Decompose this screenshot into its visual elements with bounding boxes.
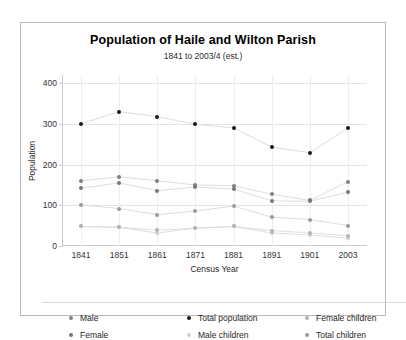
legend-item-total-children[interactable]: Total children (305, 330, 399, 340)
data-point (232, 204, 236, 208)
x-tick-label: 1861 (148, 250, 167, 260)
legend-label: Female children (316, 313, 376, 323)
x-axis-label: Census Year (62, 264, 367, 274)
data-point (117, 207, 121, 211)
y-tick-label: 300 (43, 119, 57, 129)
legend-item-male[interactable]: Male (69, 313, 187, 323)
data-point (270, 229, 274, 233)
data-point (79, 186, 83, 190)
data-point (270, 199, 274, 203)
x-tick-label: 2003 (338, 250, 357, 260)
legend-item-female[interactable]: Female (69, 330, 187, 340)
data-point (79, 179, 83, 183)
series-line-male (81, 177, 348, 201)
series-lines (62, 75, 367, 246)
chart-frame: Population of Haile and Wilton Parish 18… (20, 22, 386, 316)
legend-divider (42, 302, 406, 303)
legend-marker-icon (305, 316, 309, 320)
legend-label: Male children (198, 330, 249, 340)
data-point (308, 151, 312, 155)
x-tick-label: 1851 (110, 250, 129, 260)
x-tick-label: 1871 (186, 250, 205, 260)
data-point (193, 209, 197, 213)
data-point (155, 228, 159, 232)
data-point (270, 145, 274, 149)
legend-label: Male (80, 313, 98, 323)
data-point (308, 231, 312, 235)
data-point (193, 185, 197, 189)
data-point (346, 234, 350, 238)
y-tick-label: 0 (52, 241, 57, 251)
y-axis-label: Population (26, 75, 38, 246)
y-tick-label: 400 (43, 78, 57, 88)
legend-item-female-children[interactable]: Female children (305, 313, 399, 323)
y-tick-mark (59, 246, 63, 247)
chart-subtitle: 1841 to 2003/4 (est.) (21, 51, 385, 61)
data-point (232, 224, 236, 228)
data-point (346, 126, 350, 130)
data-point (308, 218, 312, 222)
data-point (270, 192, 274, 196)
data-point (308, 199, 312, 203)
y-tick-label: 100 (43, 200, 57, 210)
data-point (117, 225, 121, 229)
legend-label: Total children (316, 330, 366, 340)
x-tick-label: 1901 (300, 250, 319, 260)
data-point (79, 122, 83, 126)
data-point (117, 181, 121, 185)
data-point (79, 203, 83, 207)
legend-marker-icon (305, 333, 309, 337)
data-point (155, 115, 159, 119)
legend-label: Total population (198, 313, 258, 323)
data-point (232, 126, 236, 130)
legend-marker-icon (69, 333, 73, 337)
chart-legend: MaleTotal populationFemale childrenFemal… (69, 309, 399, 340)
legend-item-male-children[interactable]: Male children (187, 330, 305, 340)
series-line-total-population (81, 112, 348, 153)
legend-marker-icon (187, 333, 191, 337)
data-point (346, 224, 350, 228)
y-tick-label: 200 (43, 160, 57, 170)
legend-label: Female (80, 330, 108, 340)
data-point (155, 179, 159, 183)
chart-title: Population of Haile and Wilton Parish (21, 33, 385, 47)
data-point (155, 189, 159, 193)
data-point (232, 187, 236, 191)
plot-area: 0100200300400184118511861187118811891190… (62, 75, 367, 246)
data-point (117, 110, 121, 114)
x-tick-label: 1881 (224, 250, 243, 260)
data-point (117, 175, 121, 179)
x-tick-label: 1891 (262, 250, 281, 260)
x-tick-label: 1841 (72, 250, 91, 260)
data-point (79, 224, 83, 228)
legend-marker-icon (187, 316, 191, 320)
legend-item-total-population[interactable]: Total population (187, 313, 305, 323)
legend-marker-icon (69, 316, 73, 320)
data-point (155, 213, 159, 217)
data-point (346, 190, 350, 194)
data-point (193, 122, 197, 126)
data-point (193, 226, 197, 230)
data-point (346, 180, 350, 184)
data-point (270, 215, 274, 219)
